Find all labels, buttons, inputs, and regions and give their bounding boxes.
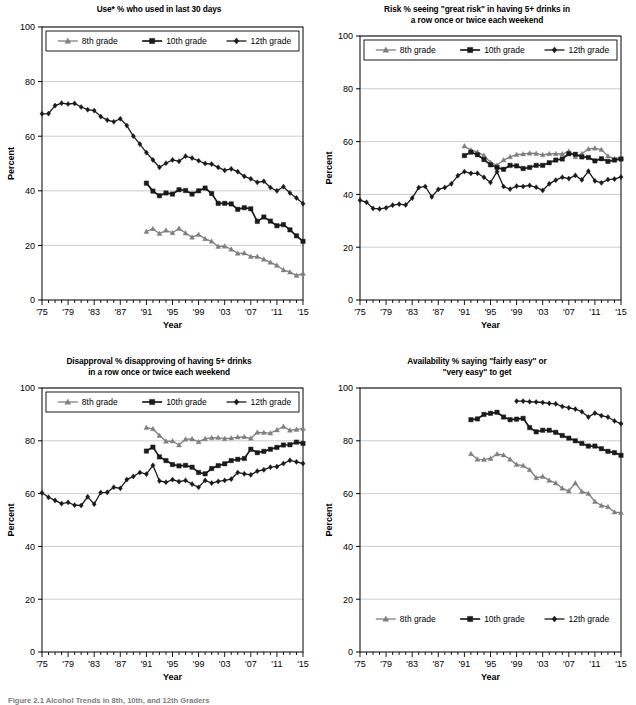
data-point-marker xyxy=(593,444,597,448)
data-point-marker xyxy=(619,453,623,457)
chart-svg-use: 020406080100'75'79'83'87'91'95'99'03'07'… xyxy=(0,0,318,352)
data-point-marker xyxy=(236,457,240,461)
data-point-marker xyxy=(151,445,155,449)
data-point-marker xyxy=(209,191,213,195)
y-tick-label: 20 xyxy=(25,241,35,251)
data-point-marker xyxy=(567,436,571,440)
x-axis-title: Year xyxy=(163,320,183,330)
legend-marker-icon xyxy=(552,616,557,622)
data-point-marker xyxy=(586,444,590,448)
legend-label: 8th grade xyxy=(82,397,118,407)
data-point-marker xyxy=(281,222,285,226)
data-point-marker xyxy=(573,439,577,443)
x-tick-label: '79 xyxy=(62,659,74,669)
series-line xyxy=(146,183,303,241)
data-point-marker xyxy=(46,495,50,500)
y-axis-title: Percent xyxy=(6,147,16,180)
data-point-marker xyxy=(443,185,447,190)
legend-label: 12th grade xyxy=(250,36,291,46)
legend-item-8th-grade[interactable]: 8th grade xyxy=(376,614,436,624)
x-tick-label: '07 xyxy=(563,659,575,669)
data-point-marker xyxy=(183,463,187,467)
data-point-marker xyxy=(475,153,479,157)
data-point-marker xyxy=(66,101,70,106)
x-tick-label: '07 xyxy=(245,659,257,669)
data-point-marker xyxy=(229,458,233,462)
data-point-marker xyxy=(527,425,531,429)
y-tick-label: 100 xyxy=(20,22,35,32)
legend-label: 8th grade xyxy=(400,45,436,55)
x-tick-label: '99 xyxy=(511,307,523,317)
data-point-marker xyxy=(275,224,279,228)
data-point-marker xyxy=(560,433,564,437)
x-tick-label: '95 xyxy=(485,307,497,317)
data-point-marker xyxy=(210,161,214,166)
x-tick-label: '87 xyxy=(114,307,126,317)
data-point-marker xyxy=(216,201,220,205)
data-point-marker xyxy=(521,416,525,420)
y-tick-label: 100 xyxy=(338,31,353,41)
data-point-marker xyxy=(580,155,584,159)
data-point-marker xyxy=(488,163,492,167)
data-point-marker xyxy=(177,479,181,484)
data-point-marker xyxy=(619,421,623,426)
legend-item-12th-grade[interactable]: 12th grade xyxy=(544,614,609,624)
data-point-marker xyxy=(262,449,266,453)
y-tick-label: 0 xyxy=(348,295,353,305)
x-tick-label: '79 xyxy=(380,307,392,317)
data-point-marker xyxy=(281,424,286,429)
data-point-marker xyxy=(275,188,279,193)
data-point-marker xyxy=(268,465,272,470)
data-point-marker xyxy=(255,180,259,185)
y-tick-label: 80 xyxy=(343,436,353,446)
series-12th-grade xyxy=(40,101,305,207)
x-tick-label: '91 xyxy=(141,307,153,317)
data-point-marker xyxy=(606,177,610,182)
data-point-marker xyxy=(377,206,381,211)
data-point-marker xyxy=(144,449,148,453)
data-point-marker xyxy=(144,181,148,185)
data-point-marker xyxy=(73,503,77,508)
data-point-marker xyxy=(482,157,486,161)
y-tick-label: 40 xyxy=(343,190,353,200)
data-point-marker xyxy=(573,173,577,178)
data-point-marker xyxy=(190,465,194,469)
legend-item-10th-grade[interactable]: 10th grade xyxy=(460,614,525,624)
chart-svg-risk: 020406080100'75'79'83'87'91'95'99'03'07'… xyxy=(318,0,636,352)
data-point-marker xyxy=(586,155,590,159)
y-tick-label: 0 xyxy=(348,647,353,657)
x-axis-title: Year xyxy=(163,672,183,682)
data-point-marker xyxy=(249,472,253,477)
data-point-marker xyxy=(210,480,214,485)
data-point-marker xyxy=(501,167,505,171)
data-point-marker xyxy=(301,461,305,466)
data-point-marker xyxy=(462,143,467,148)
data-point-marker xyxy=(216,479,220,484)
data-point-marker xyxy=(79,104,83,109)
data-point-marker xyxy=(515,399,519,404)
data-point-marker xyxy=(593,410,597,415)
data-point-marker xyxy=(216,463,220,467)
x-tick-label: '95 xyxy=(167,307,179,317)
data-point-marker xyxy=(301,239,305,243)
x-tick-label: '87 xyxy=(432,307,444,317)
data-point-marker xyxy=(190,192,194,196)
data-point-marker xyxy=(157,455,161,459)
chart-panel-disapproval: Disapproval % disapproving of having 5+ … xyxy=(0,352,318,704)
data-point-marker xyxy=(53,498,57,503)
data-point-marker xyxy=(462,153,466,157)
data-point-marker xyxy=(164,161,168,166)
data-point-marker xyxy=(606,414,610,419)
figure-caption: Figure 2.1 Alcohol Trends in 8th, 10th, … xyxy=(8,696,628,705)
x-tick-label: '95 xyxy=(485,659,497,669)
data-point-marker xyxy=(462,169,466,174)
y-tick-label: 20 xyxy=(343,595,353,605)
y-tick-label: 40 xyxy=(343,542,353,552)
y-tick-label: 100 xyxy=(20,383,35,393)
legend-marker-icon xyxy=(468,47,473,52)
data-point-marker xyxy=(262,215,266,219)
data-point-marker xyxy=(547,428,551,432)
y-tick-label: 80 xyxy=(25,77,35,87)
y-tick-label: 80 xyxy=(343,84,353,94)
